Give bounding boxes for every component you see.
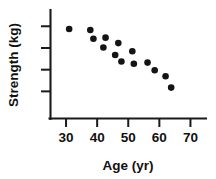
data-point-group [66, 26, 175, 91]
data-point [162, 73, 169, 80]
x-axis-tick-label-0: 30 [59, 130, 74, 145]
data-point [118, 58, 125, 65]
data-point [87, 27, 94, 34]
x-axis-tick-labels: 3040506070 [59, 130, 198, 145]
data-point [100, 44, 107, 51]
chart-screenshot: 3040506070 Age (yr) Strength (kg) [0, 0, 216, 179]
data-point [90, 35, 97, 42]
data-point [112, 52, 119, 59]
x-axis-title: Age (yr) [102, 158, 153, 173]
x-axis-tick-label-4: 70 [183, 130, 198, 145]
x-axis-tick-label-1: 40 [90, 130, 105, 145]
x-axis-tick-label-2: 50 [121, 130, 136, 145]
data-point [168, 84, 175, 91]
data-point [151, 67, 158, 74]
y-axis-title: Strength (kg) [6, 23, 21, 107]
data-point [115, 40, 122, 47]
data-point [129, 48, 136, 55]
data-point [66, 26, 73, 33]
data-point [131, 60, 138, 67]
scatter-plot: 3040506070 Age (yr) Strength (kg) [0, 0, 216, 179]
data-point [144, 59, 151, 66]
data-point [102, 34, 109, 41]
x-axis-tick-label-3: 60 [152, 130, 167, 145]
